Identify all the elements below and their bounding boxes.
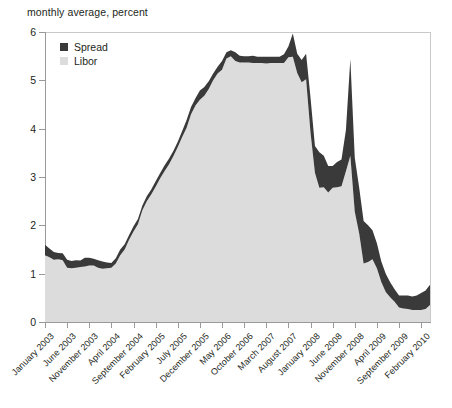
legend-item-spread: Spread	[60, 41, 108, 54]
legend-label-libor: Libor	[74, 55, 97, 68]
legend-item-libor: Libor	[60, 55, 108, 68]
chart-legend: Spread Libor	[60, 41, 108, 68]
square-swatch-icon	[60, 57, 68, 65]
area-libor	[45, 56, 430, 322]
legend-label-spread: Spread	[74, 41, 108, 54]
libor-spread-chart: monthly average, percent 0123456 January…	[0, 0, 452, 408]
square-swatch-icon	[60, 43, 68, 51]
